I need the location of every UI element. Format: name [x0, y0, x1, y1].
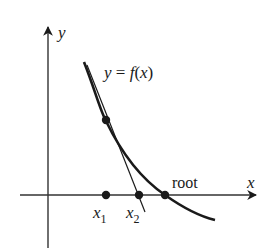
newton-method-diagram: y x y = f(x) root x1 x2: [0, 0, 272, 250]
curve-label: y = f(x): [102, 63, 153, 82]
x-axis-label: x: [246, 173, 255, 192]
x1-label: x1: [92, 203, 107, 226]
x2-label: x2: [125, 203, 140, 226]
tangent-point: [102, 116, 110, 124]
root-label: root: [172, 174, 198, 191]
y-axis-label: y: [56, 23, 66, 42]
point-x2: [135, 191, 143, 199]
point-x1: [102, 191, 110, 199]
tangent-line: [87, 65, 145, 212]
point-root: [161, 191, 169, 199]
